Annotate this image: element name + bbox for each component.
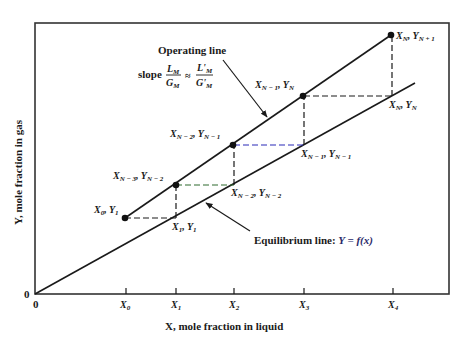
x-tick-labels: X0 X1 X2 X3 X4 [119, 299, 399, 312]
svg-text:X4: X4 [387, 299, 399, 312]
svg-text:LM: LM [166, 63, 180, 76]
point-label-xn2-yn1: XN − 2, YN − 1 [169, 128, 220, 141]
origin-x-label: 0 [33, 298, 39, 310]
point-label-xn3-yn2: XN − 3, YN − 2 [112, 170, 164, 183]
operating-line-label: Operating line [158, 44, 226, 56]
point-label-xn-yn1: XN, YN + 1 [395, 30, 435, 43]
svg-text:G'M: G'M [196, 77, 213, 90]
svg-text:X3: X3 [298, 299, 310, 312]
operating-slope-formula: slope LM GM ≈ L'M G'M [138, 62, 213, 90]
origin-y-label: 0 [24, 288, 30, 300]
point-label-x0-y1: X0, Y1 [93, 204, 119, 217]
point-label-xn2-yn2: XN − 2, YN − 2 [230, 187, 282, 200]
plot-frame [35, 23, 449, 294]
equilibrium-line [35, 83, 415, 294]
svg-text:GM: GM [166, 77, 180, 90]
svg-text:X2: X2 [228, 299, 240, 312]
equilibrium-line-label: Equilibrium line: Y = f(x) [254, 234, 373, 247]
x-axis-title: X, mole fraction in liquid [165, 320, 283, 332]
point-label-xn-yn: XN, YN [388, 99, 418, 112]
point-label-x1-y1: X1, Y1 [171, 221, 197, 234]
svg-text:≈: ≈ [185, 70, 191, 81]
y-axis-title: Y, mole fraction in gas [12, 119, 24, 225]
x-axis-ticks [126, 288, 393, 294]
point-label-xn1-yn: XN − 1, YN [254, 79, 295, 92]
stage-diagram: Operating line slope LM GM ≈ L'M G'M Equ… [0, 0, 467, 346]
svg-text:X0: X0 [119, 299, 131, 312]
equilibrium-line-arrow [206, 203, 250, 231]
svg-text:X1: X1 [170, 299, 181, 312]
point-label-xn1-yn1: XN − 1, YN − 1 [300, 148, 351, 161]
svg-text:L'M: L'M [196, 62, 213, 75]
svg-text:slope: slope [138, 68, 162, 80]
